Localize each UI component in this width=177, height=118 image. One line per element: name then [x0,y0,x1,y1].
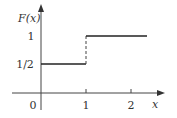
x-tick-label-2: 2 [128,99,135,112]
y-tick-label-half: 1/2 [16,58,34,71]
x-tick-label-1: 1 [83,99,90,112]
y-axis-arrow-icon [38,4,44,12]
y-tick-label-1: 1 [28,30,35,43]
cdf-step-chart: F(x) 1 1/2 0 1 2 x [0,0,177,118]
x-axis-label: x [152,98,159,111]
y-axis-label: F(x) [17,12,40,25]
origin-label: 0 [30,99,37,112]
x-axis-arrow-icon [157,90,165,96]
